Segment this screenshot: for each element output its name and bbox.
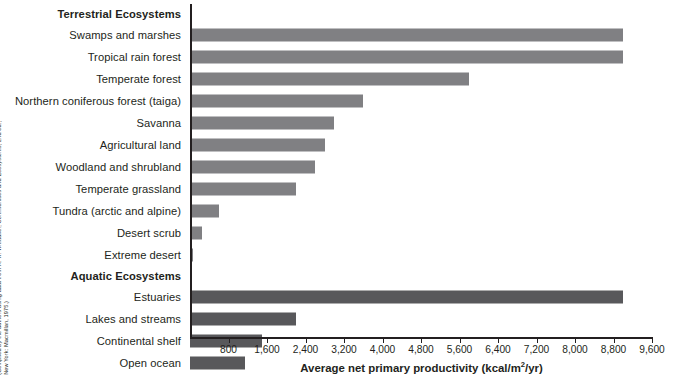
bar-woodland-and-shrubland <box>190 161 315 174</box>
bar-temperate-forest <box>190 73 469 86</box>
bar-row: Swamps and marshes <box>22 24 675 46</box>
bar-track <box>190 73 652 86</box>
x-axis-title-tail: /yr) <box>525 362 543 374</box>
bar-row: Woodland and shrubland <box>22 156 675 178</box>
bar-row: Lakes and streams <box>22 308 675 330</box>
bar-row: Savanna <box>22 112 675 134</box>
x-tick-label: 4,800 <box>408 344 434 355</box>
bar-row: Tundra (arctic and alpine) <box>22 200 675 222</box>
bar-label-continental-shelf: Continental shelf <box>97 335 181 347</box>
bar-northern-coniferous-forest-taiga <box>190 95 363 108</box>
x-tick <box>267 338 268 343</box>
x-tick-label: 2,400 <box>293 344 319 355</box>
bar-label-agricultural-land: Agricultural land <box>100 139 181 151</box>
bar-label-lakes-and-streams: Lakes and streams <box>86 313 181 325</box>
bar-swamps-and-marshes <box>190 29 623 42</box>
chart-rows: Terrestrial EcosystemsSwamps and marshes… <box>22 4 675 374</box>
x-tick <box>229 338 230 343</box>
bar-label-swamps-and-marshes: Swamps and marshes <box>69 29 181 41</box>
bar-label-tundra-arctic-and-alpine: Tundra (arctic and alpine) <box>52 205 181 217</box>
bar-label-open-ocean: Open ocean <box>119 357 181 369</box>
bar-label-tropical-rain-forest: Tropical rain forest <box>88 51 181 63</box>
group-header-label-aquatic: Aquatic Ecosystems <box>71 270 181 282</box>
bar-track <box>190 117 652 130</box>
x-tick <box>498 338 499 343</box>
x-tick-label: 8,000 <box>562 344 588 355</box>
bar-track <box>190 249 652 262</box>
bar-row: Extreme desert <box>22 244 675 266</box>
bar-desert-scrub <box>190 227 202 240</box>
plot-area: Terrestrial EcosystemsSwamps and marshes… <box>22 0 675 383</box>
x-tick-label: 8,800 <box>601 344 627 355</box>
bar-label-northern-coniferous-forest-taiga: Northern coniferous forest (taiga) <box>15 95 181 107</box>
group-header-row: Terrestrial Ecosystems <box>22 4 675 24</box>
bar-estuaries <box>190 291 623 304</box>
bar-label-woodland-and-shrubland: Woodland and shrubland <box>56 161 181 173</box>
bar-label-desert-scrub: Desert scrub <box>117 227 181 239</box>
bar-agricultural-land <box>190 139 325 152</box>
x-tick-label: 1,600 <box>254 344 280 355</box>
x-tick <box>344 338 345 343</box>
bar-row: Agricultural land <box>22 134 675 156</box>
bar-track <box>190 205 652 218</box>
x-axis-title: Average net primary productivity (kcal/m… <box>190 362 653 374</box>
bar-track <box>190 291 652 304</box>
bar-chart-figure: (Compiled by the authors using data from… <box>0 0 675 383</box>
x-axis-title-main: Average net primary productivity (kcal/m <box>300 362 521 374</box>
bar-label-savanna: Savanna <box>136 117 181 129</box>
group-header-label-terrestrial: Terrestrial Ecosystems <box>57 8 181 20</box>
bar-label-extreme-desert: Extreme desert <box>104 249 181 261</box>
bar-track <box>190 95 652 108</box>
x-tick-label: 6,400 <box>485 344 511 355</box>
x-tick <box>383 338 384 343</box>
bar-row: Tropical rain forest <box>22 46 675 68</box>
bar-row: Temperate forest <box>22 68 675 90</box>
bar-track <box>190 51 652 64</box>
bar-track <box>190 183 652 196</box>
source-credit-line-2: New York: Macmillan, 1975.) <box>4 121 11 375</box>
bar-temperate-grassland <box>190 183 296 196</box>
x-tick <box>306 338 307 343</box>
x-tick <box>575 338 576 343</box>
x-tick <box>421 338 422 343</box>
bar-label-estuaries: Estuaries <box>134 291 181 303</box>
bar-tundra-arctic-and-alpine <box>190 205 219 218</box>
bar-label-temperate-grassland: Temperate grassland <box>75 183 181 195</box>
bar-row: Northern coniferous forest (taiga) <box>22 90 675 112</box>
bar-row: Desert scrub <box>22 222 675 244</box>
y-axis-line <box>190 4 192 338</box>
bar-track <box>190 227 652 240</box>
bar-savanna <box>190 117 334 130</box>
x-tick-label: 4,000 <box>370 344 396 355</box>
bar-track <box>190 313 652 326</box>
source-credit: (Compiled by the authors using data from… <box>0 0 22 383</box>
bar-lakes-and-streams <box>190 313 296 326</box>
x-tick <box>537 338 538 343</box>
bar-tropical-rain-forest <box>190 51 623 64</box>
bar-track <box>190 161 652 174</box>
x-tick-label: 3,200 <box>331 344 357 355</box>
x-tick <box>460 338 461 343</box>
x-tick <box>614 338 615 343</box>
bar-row: Estuaries <box>22 286 675 308</box>
group-header-row: Aquatic Ecosystems <box>22 266 675 286</box>
bar-track <box>190 139 652 152</box>
bar-row: Temperate grassland <box>22 178 675 200</box>
x-tick <box>652 338 653 343</box>
bar-label-temperate-forest: Temperate forest <box>96 73 181 85</box>
x-tick-label: 5,600 <box>447 344 473 355</box>
bar-track <box>190 29 652 42</box>
x-tick-label: 7,200 <box>524 344 550 355</box>
x-tick-label: 800 <box>220 344 237 355</box>
x-tick-label: 9,600 <box>639 344 665 355</box>
